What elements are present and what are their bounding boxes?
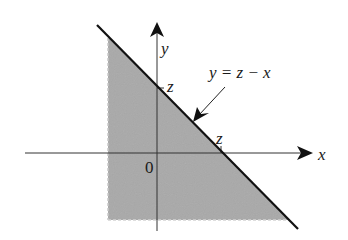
label-pointer-line <box>199 87 225 115</box>
origin-label: 0 <box>145 158 154 177</box>
equation-label: y = z − x <box>207 63 271 82</box>
x-intercept-label: z <box>215 129 223 148</box>
x-axis-label: x <box>317 145 326 164</box>
label-pointer-arrowhead-icon <box>193 107 209 122</box>
y-axis-label: y <box>159 39 169 58</box>
region-diagram: y x 0 y = z − x z z <box>0 0 348 240</box>
y-intercept-label: z <box>166 77 174 96</box>
